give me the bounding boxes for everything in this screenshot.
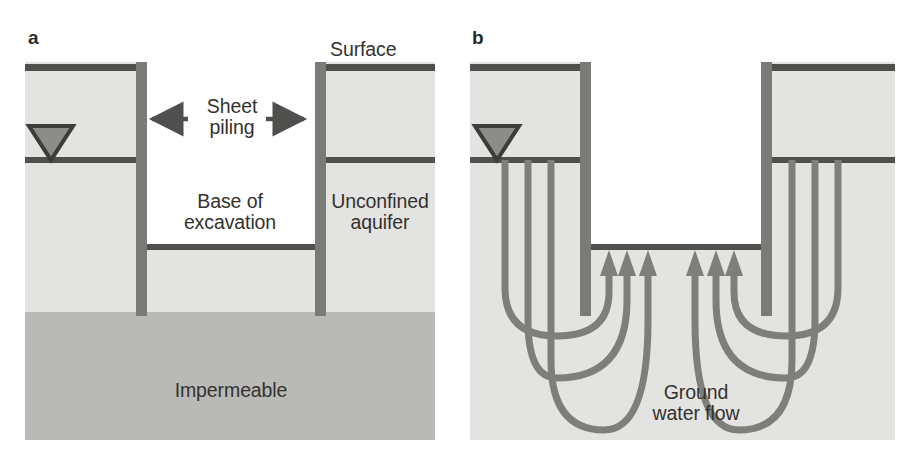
sheet-pile-left-b [580,58,591,316]
impermeable-layer-body [25,312,435,440]
ground-surface-line-right-b [765,64,895,71]
sheet-pile-right-b [761,58,772,316]
sheet-piling-label: Sheet piling [188,96,276,138]
impermeable-label: Impermeable [156,380,306,401]
unconfined-aquifer-label: Unconfined aquifer [324,191,436,233]
ground-surface-line-left [25,64,137,71]
base-of-excavation-label: Base of excavation [174,191,286,233]
excavation-base-line [141,244,321,250]
excavation-base-line-b [585,244,766,250]
excavation-void-b [585,62,766,247]
figure-container: a b [0,0,910,470]
water-table-line-right-b [765,157,895,163]
ground-surface-line-right [320,64,435,71]
sheet-pile-right [315,58,326,316]
ground-surface-line-left-b [470,64,582,71]
surface-label: Surface [330,39,397,60]
ground-water-flow-label: Ground water flow [630,382,762,424]
water-table-line-left [25,157,137,163]
water-table-line-right [320,157,435,163]
diagram-canvas [0,0,910,470]
sheet-pile-left [136,58,147,316]
